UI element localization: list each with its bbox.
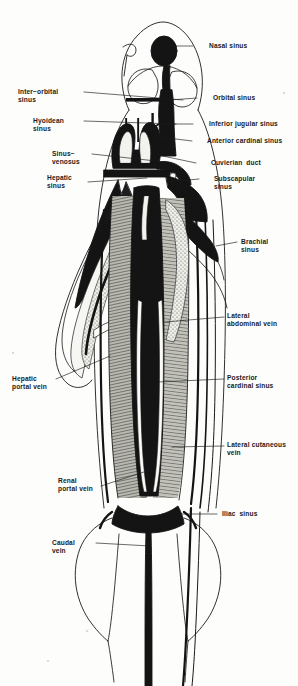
label-nasal-sinus: Nasal sinus xyxy=(209,42,247,50)
label-posterior-cardinal-sinus: Posterior cardinal sinus xyxy=(227,374,273,389)
paper-speck xyxy=(47,660,49,662)
paper-speck xyxy=(283,92,285,94)
iliac xyxy=(100,506,196,533)
label-hepatic-sinus: Hepatic sinus xyxy=(47,174,72,189)
label-inter-orbital-sinus: Inter−orbital sinus xyxy=(18,88,58,103)
label-brachial-sinus: Brachial sinus xyxy=(241,238,268,253)
label-sinus-venosus: Sinus− venosus xyxy=(52,150,80,165)
label-hepatic-portal-vein: Hepatic portal vein xyxy=(12,375,47,390)
label-renal-portal-vein: Renal portal vein xyxy=(58,477,93,492)
label-subscapular-sinus: Subscapular sinus xyxy=(214,175,255,190)
label-caudal-vein: Caudal vein xyxy=(52,539,75,554)
leader-caudal-vein xyxy=(96,543,150,546)
paper-speck xyxy=(86,630,88,632)
caudal xyxy=(145,530,152,686)
label-inferior-jugular-sinus: Inferior jugular sinus xyxy=(209,120,278,128)
label-hyoidean-sinus: Hyoidean sinus xyxy=(33,117,64,132)
label-lateral-cutaneous-vein: Lateral cutaneous vein xyxy=(227,441,286,456)
label-iliac-sinus: Iliac sinus xyxy=(222,510,258,518)
nasal-sinus-blob xyxy=(151,36,177,90)
leader-brachial-sinus xyxy=(216,242,237,246)
label-orbital-sinus: Orbital sinus xyxy=(213,94,255,102)
lateral-cutaneous xyxy=(200,216,215,512)
paper-speck xyxy=(12,352,14,354)
post-cardinal xyxy=(131,186,164,496)
label-cuvierian-duct: Cuvierian duct xyxy=(211,159,261,167)
label-anterior-cardinal-sinus: Anterior cardinal sinus xyxy=(207,137,282,145)
tail xyxy=(183,508,200,686)
label-lateral-abdominal-vein: Lateral abdominal vein xyxy=(227,312,277,327)
